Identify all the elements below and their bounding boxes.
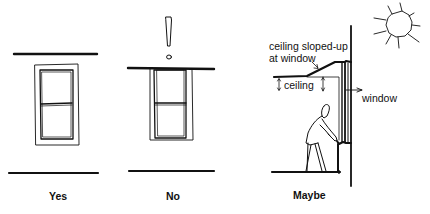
caption-no: No: [166, 191, 180, 202]
exclamation-icon: [166, 17, 172, 59]
window-placement-diagram: Yes No Maybe ceiling sloped-up at window…: [0, 0, 430, 214]
window-icon: [150, 69, 193, 140]
annotation-sloped-line2: at window: [269, 53, 316, 64]
sill: [337, 141, 351, 144]
sun-icon: [374, 3, 420, 48]
panel-no-drawing: [128, 17, 214, 171]
window-section: [342, 63, 348, 142]
panel-yes-drawing: [9, 54, 98, 173]
annotation-window: window: [362, 93, 397, 104]
person-figure: [306, 105, 337, 172]
diagram-drawing: [0, 0, 430, 214]
window-icon: [35, 64, 79, 145]
annotation-ceiling: ceiling: [284, 80, 314, 91]
caption-maybe: Maybe: [293, 190, 326, 201]
ceiling-line: [128, 68, 214, 69]
annotation-sloped-line1: ceiling sloped-up: [269, 41, 348, 52]
caption-yes: Yes: [49, 191, 67, 202]
